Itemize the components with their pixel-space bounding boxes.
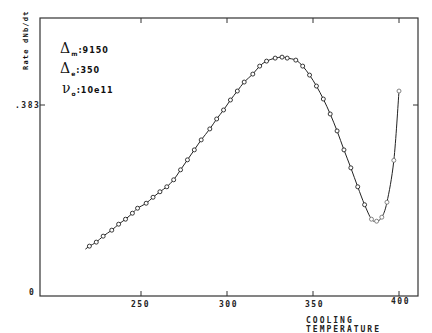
data-point-marker — [397, 89, 401, 93]
data-point-marker — [136, 206, 140, 210]
data-point-marker — [385, 200, 389, 204]
data-point-marker — [301, 64, 305, 68]
x-axis-label: COOLING TEMPERATURE — [306, 316, 432, 333]
data-point-marker — [335, 129, 339, 133]
data-point-marker — [94, 240, 98, 244]
data-point-marker — [215, 117, 219, 121]
data-point-marker — [192, 148, 196, 152]
data-point-marker — [349, 166, 353, 170]
param-delta-m: Δm:9150 — [60, 40, 109, 57]
data-point-marker — [179, 168, 183, 172]
data-point-marker — [308, 73, 312, 77]
data-point-marker — [356, 185, 360, 189]
data-point-marker — [110, 228, 114, 232]
data-point-marker — [199, 138, 203, 142]
data-point-marker — [208, 127, 212, 131]
data-point-marker — [144, 201, 148, 205]
data-point-marker — [124, 217, 128, 221]
x-tick-label-400: 400 — [391, 297, 410, 306]
x-tick-label-300: 300 — [219, 300, 238, 309]
data-point-marker — [172, 178, 176, 182]
data-point-marker — [117, 222, 121, 226]
y-tick-label-383: .383 — [15, 101, 40, 110]
data-point-marker — [265, 59, 269, 63]
y-tick-label-0: 0 — [29, 288, 35, 297]
data-point-marker — [363, 203, 367, 207]
data-point-marker — [369, 217, 373, 221]
data-point-marker — [280, 55, 284, 59]
data-point-marker — [285, 56, 289, 60]
data-point-marker — [294, 58, 298, 62]
data-point-marker — [258, 64, 262, 68]
data-curve — [85, 57, 399, 249]
param-nu-o: νo:10e11 — [62, 80, 114, 97]
data-point-marker — [222, 108, 226, 112]
data-point-marker — [392, 158, 396, 162]
data-point-marker — [130, 211, 134, 215]
data-point-marker — [251, 72, 255, 76]
data-point-marker — [314, 84, 318, 88]
data-point-marker — [235, 89, 239, 93]
data-point-marker — [151, 195, 155, 199]
data-point-marker — [101, 234, 105, 238]
data-point-marker — [380, 215, 384, 219]
delta-symbol: Δ — [60, 40, 71, 56]
data-point-marker — [273, 56, 277, 60]
data-point-marker — [228, 98, 232, 102]
data-point-marker — [158, 190, 162, 194]
data-point-marker — [165, 185, 169, 189]
data-point-marker — [342, 148, 346, 152]
x-tick-label-250: 250 — [131, 300, 150, 309]
data-point-marker — [321, 97, 325, 101]
data-point-marker — [328, 112, 332, 116]
data-markers — [87, 55, 401, 248]
data-point-marker — [375, 219, 379, 223]
nu-symbol: ν — [62, 80, 72, 96]
y-axis-label: Rate dNb/dt — [22, 10, 30, 70]
data-point-marker — [185, 158, 189, 162]
x-tick-label-350: 350 — [305, 300, 324, 309]
data-point-marker — [242, 80, 246, 84]
delta-symbol: Δ — [60, 60, 71, 76]
param-delta-e: Δe:350 — [60, 60, 100, 77]
data-point-marker — [87, 244, 91, 248]
